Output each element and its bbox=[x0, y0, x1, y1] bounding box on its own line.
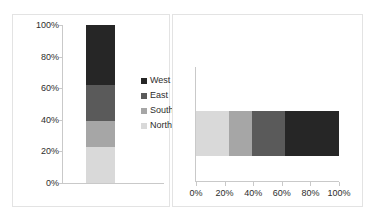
legend-label: North bbox=[150, 121, 172, 130]
vertical-stacked-bar-chart-panel: 100% 80% 60% 40% 20% 0% West East South bbox=[12, 14, 170, 207]
legend-label: East bbox=[150, 91, 168, 100]
x-axis-tick-label: 0% bbox=[181, 189, 211, 198]
x-axis-tick-label: 20% bbox=[210, 189, 240, 198]
x-axis-line bbox=[62, 183, 164, 184]
y-axis-tick-label: 0% bbox=[15, 179, 59, 188]
bar-segment-north bbox=[86, 147, 115, 183]
bar-segment-east bbox=[252, 111, 285, 156]
y-axis-tick-labels: 100% 80% 60% 40% 20% 0% bbox=[15, 25, 59, 183]
horizontal-stacked-bar-chart-panel: 0% 20% 40% 60% 80% 100% bbox=[172, 14, 363, 207]
x-axis-tick-mark bbox=[253, 182, 254, 186]
y-axis-tick-label: 100% bbox=[15, 21, 59, 30]
bar-segment-north bbox=[196, 111, 229, 156]
x-axis-tick-label: 80% bbox=[295, 189, 325, 198]
x-axis-tick-label: 60% bbox=[267, 189, 297, 198]
x-axis-tick-label: 40% bbox=[238, 189, 268, 198]
x-axis-line bbox=[195, 181, 339, 182]
x-axis-tick-mark bbox=[339, 182, 340, 186]
x-axis-tick-labels: 0% 20% 40% 60% 80% 100% bbox=[173, 189, 362, 201]
y-axis-tick-mark bbox=[59, 120, 63, 121]
horizontal-stacked-bar bbox=[196, 111, 339, 156]
bar-segment-south bbox=[229, 111, 252, 156]
bar-segment-south bbox=[86, 121, 115, 146]
x-axis-tick-mark bbox=[225, 182, 226, 186]
y-axis-tick-label: 60% bbox=[15, 84, 59, 93]
bar-segment-west bbox=[285, 111, 339, 156]
bar-segment-west bbox=[86, 25, 115, 85]
x-axis-tick-mark bbox=[282, 182, 283, 186]
vertical-stacked-bar bbox=[86, 25, 115, 183]
legend-swatch-icon bbox=[141, 93, 147, 99]
x-axis-tick-mark bbox=[310, 182, 311, 186]
y-axis-tick-label: 40% bbox=[15, 116, 59, 125]
y-axis-tick-label: 20% bbox=[15, 147, 59, 156]
legend-label: South bbox=[150, 106, 174, 115]
y-axis-line bbox=[62, 25, 63, 183]
legend-swatch-icon bbox=[141, 123, 147, 129]
y-axis-tick-mark bbox=[59, 88, 63, 89]
y-axis-tick-mark bbox=[59, 25, 63, 26]
legend-swatch-icon bbox=[141, 78, 147, 84]
x-axis-tick-label: 100% bbox=[324, 189, 354, 198]
legend-label: West bbox=[150, 76, 170, 85]
legend-swatch-icon bbox=[141, 108, 147, 114]
bar-segment-east bbox=[86, 85, 115, 121]
x-axis-tick-mark bbox=[196, 182, 197, 186]
y-axis-tick-mark bbox=[59, 57, 63, 58]
y-axis-tick-label: 80% bbox=[15, 53, 59, 62]
y-axis-tick-mark bbox=[59, 151, 63, 152]
